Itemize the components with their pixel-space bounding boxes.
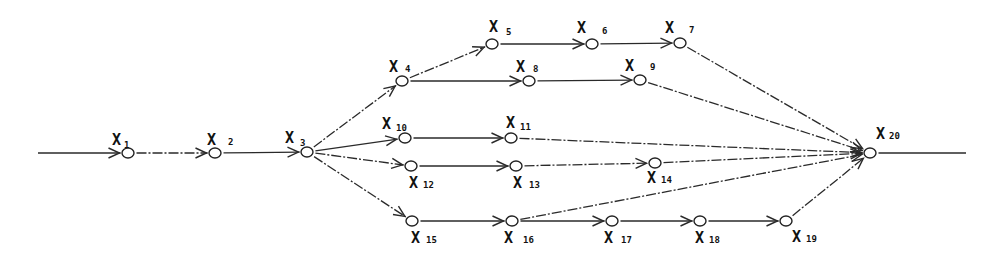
node-x7 [674,38,686,48]
node-x13 [510,161,522,171]
node-subscript-x4: 4 [405,64,411,74]
nodes-layer [122,38,876,226]
node-subscript-x20: 20 [889,131,900,141]
node-x18 [694,216,706,226]
edge-x11-x20 [519,138,862,152]
node-subscript-x8: 8 [533,64,538,74]
edge-x16-x20 [520,154,862,219]
node-x5 [486,39,498,49]
node-subscript-x11: 11 [520,122,531,132]
node-label-x7: X [665,19,674,37]
edge-x3-x15 [314,157,406,217]
node-subscript-x1: 1 [124,140,129,150]
node-x8 [523,76,535,86]
node-label-x15: X [411,229,420,247]
node-label-x12: X [409,174,418,192]
node-x16 [506,216,518,226]
edge-x8-x9 [537,80,632,81]
edge-x3-x12 [315,153,403,165]
node-subscript-x5: 5 [506,27,511,37]
node-label-x9: X [625,57,634,75]
node-label-x19: X [792,228,801,246]
edge-x19-x20 [793,158,865,216]
edge-x4-x5 [410,47,485,78]
edges-layer [38,43,966,221]
node-subscript-x19: 19 [806,234,817,244]
arrowhead-icon [393,206,405,216]
node-subscript-x14: 14 [661,175,672,185]
node-label-x17: X [604,229,613,247]
node-subscript-x9: 9 [650,62,655,72]
node-subscript-x2: 2 [228,137,233,147]
edge-x14-x20 [663,153,862,162]
node-label-x2: X [207,131,216,149]
node-x10 [399,133,411,143]
arrowheads-layer [109,38,864,226]
node-x4 [396,76,408,86]
labels-layer: X1X2X3X4X5X6X7X8X9X10X11X12X13X14X15X16X… [112,18,900,247]
node-label-x11: X [506,114,515,132]
node-x20 [864,148,876,158]
node-subscript-x7: 7 [689,25,694,35]
node-label-x18: X [695,229,704,247]
edge-x13-x14 [524,163,647,166]
node-x19 [780,216,792,226]
node-x6 [586,39,598,49]
edge-x7-x20 [687,47,863,149]
node-x2 [209,148,221,158]
node-label-x5: X [489,18,498,36]
node-subscript-x15: 15 [426,235,437,245]
node-label-x1: X [112,131,121,149]
node-label-x16: X [504,229,513,247]
node-label-x13: X [513,174,522,192]
node-subscript-x3: 3 [300,138,305,148]
node-subscript-x13: 13 [529,180,540,190]
edge-x6-x7 [600,43,672,44]
node-x15 [406,216,418,226]
node-x3 [301,147,313,157]
node-subscript-x12: 12 [423,180,434,190]
edge-x9-x20 [648,83,863,151]
node-subscript-x17: 17 [621,235,632,245]
edge-x2-x3 [223,152,299,153]
node-label-x20: X [876,125,885,143]
node-x14 [649,158,661,168]
node-subscript-x16: 16 [523,235,534,245]
node-label-x10: X [382,115,391,133]
edge-x3-x10 [315,139,397,151]
node-x17 [606,216,618,226]
node-x12 [405,161,417,171]
node-subscript-x6: 6 [602,26,607,36]
network-diagram: X1X2X3X4X5X6X7X8X9X10X11X12X13X14X15X16X… [0,0,997,261]
node-subscript-x18: 18 [709,235,720,245]
node-label-x14: X [647,169,656,187]
node-label-x4: X [389,58,398,76]
node-label-x3: X [285,129,294,147]
node-label-x8: X [516,58,525,76]
node-subscript-x10: 10 [396,123,407,133]
node-label-x6: X [577,19,586,37]
node-x11 [505,133,517,143]
node-x9 [634,75,646,85]
